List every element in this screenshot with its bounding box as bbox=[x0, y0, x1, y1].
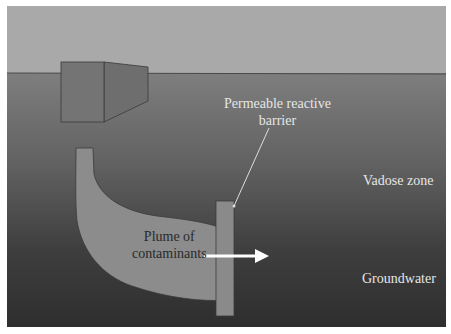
leader-dot bbox=[233, 205, 236, 208]
plume-label-line1: Plume of bbox=[132, 228, 207, 245]
reactive-barrier bbox=[216, 201, 234, 316]
plume-label-line2: contaminants bbox=[132, 245, 207, 262]
barrier-label: Permeable reactive barrier bbox=[224, 95, 331, 129]
plume-label: Plume of contaminants bbox=[132, 228, 207, 262]
groundwater-label: Groundwater bbox=[362, 270, 436, 287]
barrier-label-line2: barrier bbox=[224, 112, 331, 129]
barrier-label-line1: Permeable reactive bbox=[224, 95, 331, 112]
diagram-frame: Permeable reactive barrier Vadose zone P… bbox=[7, 6, 446, 327]
vadose-zone-label: Vadose zone bbox=[363, 172, 433, 189]
